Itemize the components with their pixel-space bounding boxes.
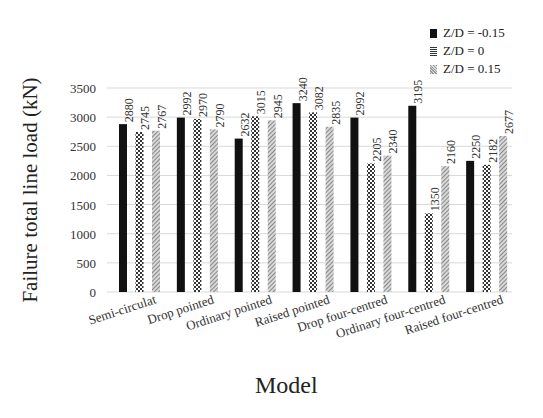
legend-item: Z/D = 0 [430,42,505,60]
legend: Z/D = -0.15 Z/D = 0 Z/D = 0.15 [430,24,505,78]
bar-value-label: 2790 [213,103,227,127]
y-axis-ticks: 0500100015002000250030003500 [70,81,96,300]
bar-value-label: 2992 [180,92,194,116]
bar [466,161,474,292]
y-tick-label: 1500 [70,198,96,213]
bar [193,119,201,292]
legend-swatch-solid [430,29,437,38]
bar [408,106,416,292]
y-tick-label: 1000 [70,227,96,242]
y-tick-label: 0 [90,285,97,300]
bar-value-label: 2745 [139,106,153,130]
legend-label: Z/D = 0.15 [443,60,501,78]
y-tick-label: 3500 [70,81,96,96]
bar [119,124,127,292]
bar [441,166,449,292]
bar [152,131,160,292]
y-tick-label: 2000 [70,168,96,183]
bar-value-label: 3082 [312,86,326,110]
bar [425,213,433,292]
bar [309,112,317,292]
legend-label: Z/D = 0 [443,42,484,60]
y-axis-label: Failure total line load (kN) [18,77,43,302]
legend-label: Z/D = -0.15 [443,24,505,42]
bar-value-label: 2970 [196,93,210,117]
y-tick-label: 3000 [70,110,96,125]
bar [483,165,491,292]
bar-value-label: 2340 [386,130,400,154]
x-axis-labels: Semi-circulatDrop pointedOrdinary pointe… [87,291,506,341]
bar [268,120,276,292]
bar [293,103,301,292]
legend-swatch-hatch [430,65,437,74]
bar [136,132,144,292]
bar-value-label: 2880 [122,98,136,122]
bar [210,129,218,292]
y-tick-label: 500 [77,256,97,271]
bar-value-label: 3015 [254,90,268,114]
bar [350,118,358,292]
bar [251,116,259,292]
bar-value-label: 2677 [502,110,516,134]
y-tick-label: 2500 [70,139,96,154]
bar-value-label: 2835 [329,101,343,125]
bar-value-label: 2205 [370,137,384,161]
bar [383,156,391,292]
legend-item: Z/D = -0.15 [430,24,505,42]
bar [235,139,243,292]
bar-value-label: 2250 [469,135,483,159]
bar-value-label: 2160 [444,140,458,164]
bar-value-label: 2945 [271,94,285,118]
bar-value-label: 2182 [486,139,500,163]
bar [367,163,375,292]
bar-value-label: 3240 [296,77,310,101]
bar-value-label: 3195 [411,80,425,104]
bar [499,136,507,292]
bar-value-label: 1350 [428,187,442,211]
bar-value-label: 2767 [155,105,169,129]
bar-value-label: 2632 [238,113,252,137]
bar [326,127,334,292]
bars: 2880274527672992297027902632301529453240… [119,77,516,292]
legend-swatch-checker [430,47,437,56]
bar [177,118,185,292]
legend-item: Z/D = 0.15 [430,60,505,78]
x-axis-label: Model [255,372,318,399]
bar-value-label: 2992 [353,92,367,116]
